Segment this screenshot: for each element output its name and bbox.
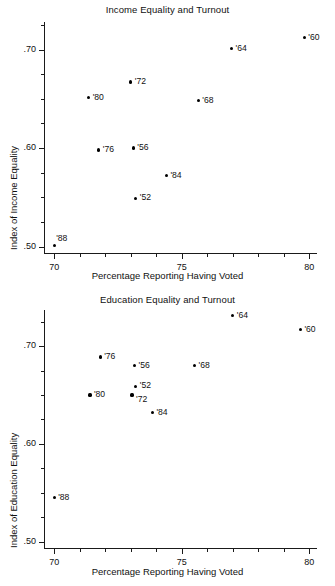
data-point [87,96,90,99]
x-tick-label: 80 [294,557,324,567]
y-tick-major [39,542,44,543]
chart-education-equality: Education Equality and Turnout Index of … [0,290,335,586]
data-point-label: '80 [93,92,104,102]
x-tick-major [182,254,183,259]
y-tick-major [39,148,44,149]
x-axis-title-education: Percentage Reporting Having Voted [0,566,335,577]
data-point [165,174,168,177]
chart-income-equality: Income Equality and Turnout Index of Inc… [0,0,335,290]
x-tick-minor [131,254,132,257]
x-tick-minor [284,549,285,552]
y-tick-label: .70 [4,340,36,350]
data-point [53,496,56,499]
x-tick-minor [207,549,208,552]
data-point-label: '88 [56,233,67,243]
data-point [134,197,137,200]
data-point [193,364,196,367]
y-tick-minor [41,493,44,494]
x-tick-major [309,254,310,259]
y-tick-minor [41,197,44,198]
x-tick-minor [207,254,208,257]
x-tick-minor [156,254,157,257]
x-tick-minor [156,549,157,552]
y-tick-minor [41,371,44,372]
y-axis-title-income: Index of Income Equality [8,146,19,250]
y-tick-minor [41,123,44,124]
data-point [133,364,136,367]
data-point-label: '52 [140,380,151,390]
data-point-label: '64 [236,43,247,53]
x-tick-label: 75 [167,557,197,567]
chart-title-income: Income Equality and Turnout [0,4,335,15]
y-tick-minor [41,222,44,223]
x-tick-minor [80,549,81,552]
x-tick-major [54,254,55,259]
x-tick-minor [258,254,259,257]
data-point-label: '80 [94,389,105,399]
data-point-label: '76 [104,351,115,361]
data-point [231,314,234,317]
y-tick-minor [41,395,44,396]
data-point-label: '56 [137,142,148,152]
data-point-label: '60 [308,32,319,42]
y-tick-minor [41,322,44,323]
data-point [134,385,137,388]
data-point-label: '64 [237,310,248,320]
x-tick-label: 80 [294,262,324,272]
x-tick-major [54,549,55,554]
x-axis-line [44,548,317,549]
x-tick-minor [284,254,285,257]
y-tick-minor [41,25,44,26]
data-point [97,148,100,151]
x-tick-minor [131,549,132,552]
y-tick-label: .50 [4,536,36,546]
y-axis-line [44,22,45,253]
data-point [197,99,200,102]
y-tick-minor [41,99,44,100]
data-point-label: '72 [135,76,146,86]
y-tick-label: .60 [4,438,36,448]
x-axis-line [44,253,317,254]
data-point-label: '68 [199,360,210,370]
data-point-label: '72 [136,394,147,404]
y-tick-minor [41,468,44,469]
data-point [230,47,233,50]
data-point-label: '56 [139,360,150,370]
data-point [303,36,306,39]
y-tick-minor [41,517,44,518]
data-point [299,328,302,331]
x-tick-label: 75 [167,262,197,272]
x-tick-major [309,549,310,554]
y-tick-minor [41,74,44,75]
data-point [53,244,56,247]
data-point [130,393,133,396]
y-tick-major [39,50,44,51]
x-tick-minor [80,254,81,257]
x-tick-label: 70 [39,557,69,567]
y-tick-major [39,346,44,347]
y-tick-label: .70 [4,44,36,54]
data-point-label: '88 [58,492,69,502]
y-tick-label: .50 [4,241,36,251]
x-tick-minor [105,254,106,257]
data-point-label: '84 [156,407,167,417]
chart-title-education: Education Equality and Turnout [0,294,335,305]
data-point-label: '60 [304,324,315,334]
x-tick-minor [233,254,234,257]
x-tick-major [182,549,183,554]
data-point [88,393,91,396]
y-tick-label: .60 [4,142,36,152]
x-tick-minor [258,549,259,552]
data-point-label: '68 [202,95,213,105]
data-point-label: '52 [140,192,151,202]
y-tick-major [39,247,44,248]
data-point-label: '76 [103,144,114,154]
y-axis-line [44,310,45,548]
data-point [132,146,135,149]
x-tick-minor [105,549,106,552]
x-tick-minor [233,549,234,552]
data-point [129,80,132,83]
data-point [151,411,154,414]
y-tick-major [39,444,44,445]
y-axis-title-education: Index of Education Equality [8,433,19,548]
